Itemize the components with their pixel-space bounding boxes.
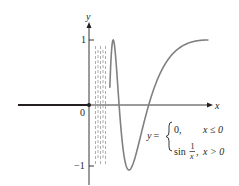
tick-label-neg-one: −1: [74, 160, 85, 171]
y-axis-arrow-icon: [87, 22, 92, 28]
piecewise-equation: y= 0, x ≤ 0 sin 1 x , x > 0: [146, 122, 224, 161]
equation-lhs: y=: [146, 130, 159, 141]
y-axis-label: y: [85, 11, 91, 22]
case2-den: x: [189, 152, 194, 161]
left-brace-icon: [166, 122, 172, 151]
origin-label: 0: [80, 107, 85, 118]
case1-cond: x ≤ 0: [202, 124, 223, 135]
x-axis-label: x: [214, 100, 220, 111]
case2-cond: x > 0: [202, 146, 224, 157]
origin-dot: [87, 103, 91, 107]
case2-fn: sin: [174, 146, 186, 157]
x-axis-arrow-icon: [207, 103, 213, 108]
tick-label-pos-one: 1: [81, 34, 86, 45]
case1-expr: 0,: [174, 124, 182, 135]
case2-num: 1: [191, 142, 195, 151]
function-graph: y x 0 1 −1 y= 0, x ≤ 0 sin 1 x , x > 0: [0, 0, 239, 186]
case2-comma: ,: [196, 146, 199, 157]
